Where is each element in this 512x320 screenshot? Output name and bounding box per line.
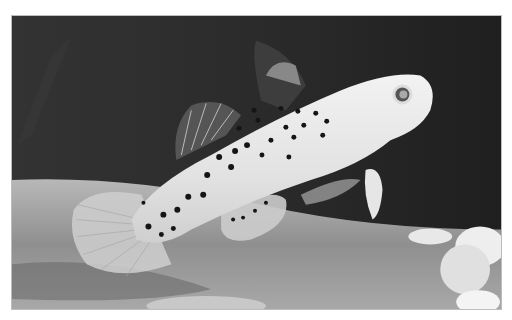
photo bbox=[11, 15, 502, 310]
fish-photograph bbox=[12, 16, 501, 309]
